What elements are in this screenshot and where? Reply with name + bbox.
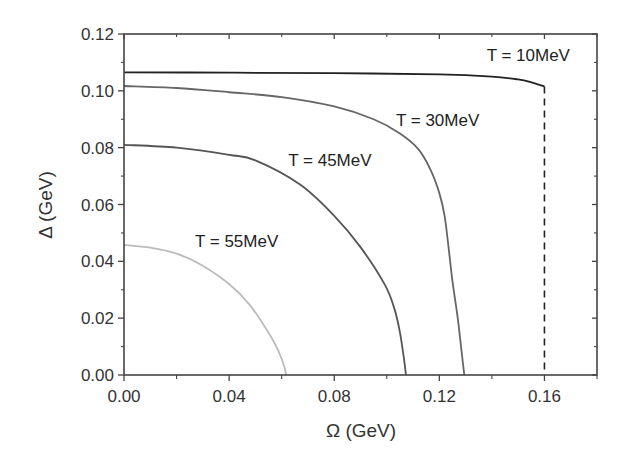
y-tick-label: 0.02 — [81, 309, 114, 328]
y-tick-label: 0.12 — [81, 25, 114, 44]
curve-t-45mev — [124, 145, 406, 375]
x-tick-label: 0.16 — [528, 387, 561, 406]
y-tick-label: 0.00 — [81, 366, 114, 385]
annotations-layer: T = 10MeVT = 30MeVT = 45MeVT = 55MeV — [195, 46, 571, 251]
curve-label: T = 55MeV — [195, 232, 279, 251]
x-axis-title: Ω (GeV) — [326, 420, 396, 441]
y-tick-label: 0.10 — [81, 82, 114, 101]
y-axis-title: Δ (GeV) — [35, 171, 56, 239]
curve-label: T = 45MeV — [288, 151, 372, 170]
x-tick-label: 0.00 — [107, 387, 140, 406]
x-tick-label: 0.12 — [423, 387, 456, 406]
curve-t-10mev — [124, 72, 544, 86]
y-tick-label: 0.08 — [81, 139, 114, 158]
gap-vs-frequency-chart: 0.000.040.080.120.160.000.020.040.060.08… — [0, 0, 628, 460]
curve-label: T = 10MeV — [487, 46, 571, 65]
x-tick-label: 0.04 — [213, 387, 246, 406]
axes-layer: 0.000.040.080.120.160.000.020.040.060.08… — [81, 25, 597, 406]
y-tick-label: 0.04 — [81, 252, 114, 271]
plot-frame — [124, 34, 597, 375]
x-tick-label: 0.08 — [318, 387, 351, 406]
y-tick-label: 0.06 — [81, 196, 114, 215]
curves-layer — [124, 72, 544, 375]
curve-label: T = 30MeV — [396, 111, 480, 130]
curve-t-55mev — [124, 245, 286, 375]
